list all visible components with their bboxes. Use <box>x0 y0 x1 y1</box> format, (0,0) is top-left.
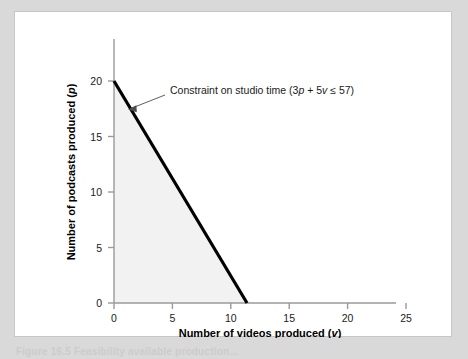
x-tick-label-25: 25 <box>400 312 412 324</box>
constraint-annotation-text: Constraint on studio time (3p + 5v ≤ 57) <box>170 84 354 96</box>
x-axis-title-suffix: ) <box>338 327 342 338</box>
annotation-mid: + 5 <box>304 84 322 96</box>
y-axis-title-suffix: ) <box>65 83 77 87</box>
annotation-prefix: Constraint on studio time (3 <box>170 84 299 96</box>
annotation-suffix: ≤ 57) <box>327 84 354 96</box>
y-axis-title: Number of podcasts produced (p) <box>65 83 77 260</box>
x-tick-label-5: 5 <box>169 312 175 324</box>
x-tick-label-20: 20 <box>342 312 354 324</box>
y-tick-label-10: 10 <box>90 186 102 198</box>
y-tick-label-0: 0 <box>96 297 102 309</box>
x-tick-label-10: 10 <box>225 312 237 324</box>
y-tick-label-20: 20 <box>90 75 102 87</box>
x-axis-ticks <box>114 303 406 309</box>
y-axis-title-prefix: Number of podcasts produced ( <box>65 94 77 261</box>
chart-card: 0 5 10 15 20 0 5 10 15 20 25 <box>14 11 452 337</box>
y-tick-label-5: 5 <box>96 242 102 254</box>
figure-plate: 0 5 10 15 20 0 5 10 15 20 25 <box>0 0 468 359</box>
x-axis-title-prefix: Number of videos produced ( <box>179 327 332 338</box>
x-tick-label-15: 15 <box>283 312 295 324</box>
y-axis-ticks <box>108 81 114 303</box>
figure-caption: Figure 16.5 Feasibility available produc… <box>16 344 452 359</box>
annotation-arrow <box>128 95 165 112</box>
x-tick-label-0: 0 <box>111 312 117 324</box>
chart-svg: 0 5 10 15 20 0 5 10 15 20 25 <box>15 12 453 338</box>
x-axis-title: Number of videos produced (v) <box>179 327 342 338</box>
y-tick-label-15: 15 <box>90 131 102 143</box>
